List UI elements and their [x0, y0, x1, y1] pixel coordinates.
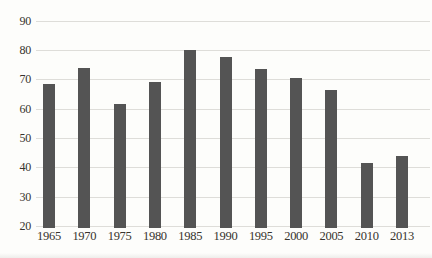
gridline-y-90 [36, 21, 430, 22]
x-axis-tick-label: 1985 [172, 230, 208, 243]
x-axis-tick-label: 1970 [66, 230, 102, 243]
x-axis-tick-label: 2000 [278, 230, 314, 243]
gridline-y-50 [36, 138, 430, 139]
y-axis-tick-label: 60 [5, 103, 31, 115]
bar-2013 [396, 156, 408, 228]
x-axis-tick-label: 1990 [208, 230, 244, 243]
bar-1995 [255, 69, 267, 228]
bar-2010 [361, 163, 373, 228]
bar-1975 [114, 104, 126, 228]
bar-1990 [220, 57, 232, 228]
x-axis-tick-label: 1965 [31, 230, 67, 243]
bar-1985 [184, 50, 196, 228]
gridline-y-70 [36, 79, 430, 80]
x-axis-tick-label: 2010 [349, 230, 385, 243]
y-axis-tick-label: 70 [5, 73, 31, 85]
plot-area: 2030405060708090196519701975198019851990… [0, 0, 432, 258]
bar-2000 [290, 78, 302, 228]
bar-1970 [78, 68, 90, 229]
gridline-y-80 [36, 50, 430, 51]
x-axis-tick-label: 2013 [384, 230, 420, 243]
bar-2005 [325, 90, 337, 228]
y-axis-tick-label: 80 [5, 44, 31, 56]
y-axis-tick-label: 50 [5, 132, 31, 144]
bar-chart-figure: 2030405060708090196519701975198019851990… [0, 0, 432, 258]
y-axis-tick-label: 90 [5, 15, 31, 27]
x-axis-tick-label: 1995 [243, 230, 279, 243]
y-axis-tick-label: 20 [5, 220, 31, 232]
bar-1980 [149, 82, 161, 228]
x-axis-tick-label: 1975 [102, 230, 138, 243]
y-axis-tick-label: 40 [5, 161, 31, 173]
x-axis-tick-label: 2005 [313, 230, 349, 243]
y-axis-tick-label: 30 [5, 191, 31, 203]
x-axis-tick-label: 1980 [137, 230, 173, 243]
bar-1965 [43, 84, 55, 228]
gridline-y-60 [36, 109, 430, 110]
